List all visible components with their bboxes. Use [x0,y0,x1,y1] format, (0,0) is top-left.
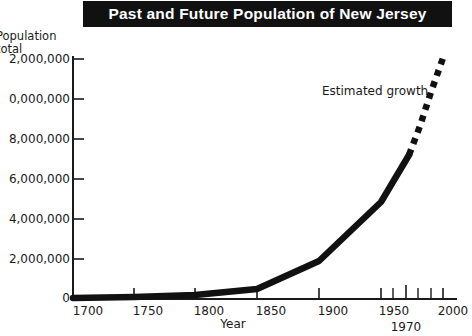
y-tick-label-2000000: 2,000,000 [9,252,70,266]
y-tick-label-10000000: 0,000,000 [9,92,70,106]
y-tick-label-0: 0 [62,291,70,305]
x-tick-label-1700: 1700 [73,304,104,318]
series-actual-population [73,155,409,298]
x-tick-label-1900: 1900 [318,304,349,318]
x-tick-label-1750: 1750 [133,304,164,318]
y-tick-label-6000000: 6,000,000 [9,172,70,186]
line-chart-plot: 2,000,000 0,000,000 8,000,000 6,000,000 … [0,0,472,336]
y-tick-label-4000000: 4,000,000 [9,212,70,226]
y-tick-label-8000000: 8,000,000 [9,132,70,146]
x-tick-label-1970: 1970 [391,320,422,334]
series-estimated-growth [409,58,443,155]
chart-page: Past and Future Population of New Jersey… [0,0,472,336]
x-tick-label-1950: 1950 [379,304,410,318]
y-tick-marks [73,59,84,259]
x-tick-label-1850: 1850 [256,304,287,318]
y-tick-label-12000000: 2,000,000 [9,52,70,66]
estimated-growth-annotation: Estimated growth [322,84,428,98]
x-tick-label-1800: 1800 [194,304,225,318]
y-tick-labels: 2,000,000 0,000,000 8,000,000 6,000,000 … [9,52,70,305]
x-tick-label-2000: 2000 [438,304,469,318]
x-axis-title: Year [219,317,245,331]
x-tick-labels: 1700 1750 1800 1850 1900 1950 1970 2000 [73,304,469,334]
